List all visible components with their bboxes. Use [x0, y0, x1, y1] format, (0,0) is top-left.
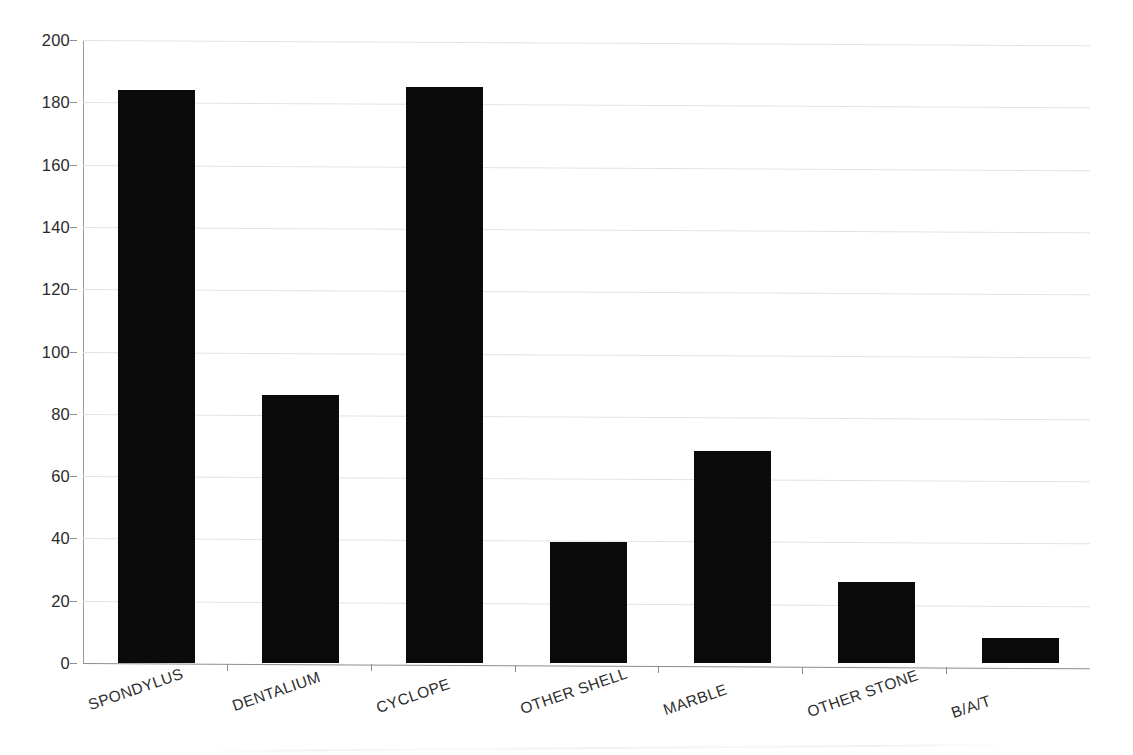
x-axis-tick-label: OTHER SHELL: [518, 665, 630, 719]
gridline: [83, 289, 1090, 295]
bar: [550, 542, 627, 663]
y-axis-tick-label: 0: [61, 654, 70, 673]
y-axis-tick-label: 200: [42, 31, 70, 50]
y-axis-tick-labels: 020406080100120140160180200: [0, 40, 70, 663]
gridline: [83, 102, 1090, 108]
y-axis-tick-mark: [70, 102, 77, 103]
x-axis-tick-label: CYCLOPE: [374, 675, 453, 717]
y-axis-tick-label: 60: [51, 467, 70, 486]
y-axis-tick-mark: [70, 289, 77, 290]
x-axis-tick-label: B/A/T: [949, 692, 993, 722]
y-axis-tick-mark: [70, 476, 77, 477]
x-axis-tick-labels: SPONDYLUSDENTALIUMCYCLOPEOTHER SHELLMARB…: [83, 663, 1133, 755]
bar: [262, 395, 339, 663]
y-axis-tick-mark: [70, 352, 77, 353]
bar: [694, 451, 771, 663]
x-axis-tick-label: DENTALIUM: [230, 668, 323, 715]
x-axis-tick-label: OTHER STONE: [805, 666, 921, 721]
y-axis-tick-label: 180: [42, 93, 70, 112]
gridline: [83, 414, 1090, 420]
plot-area: [83, 40, 1090, 663]
y-axis-tick-mark: [70, 663, 77, 664]
bar: [118, 90, 195, 663]
y-axis-tick-mark: [70, 601, 77, 602]
x-axis-tick-label: MARBLE: [661, 681, 729, 720]
y-axis-tick-label: 140: [42, 217, 70, 236]
y-axis-tick-label: 160: [42, 155, 70, 174]
y-axis-tick-mark: [70, 538, 77, 539]
y-axis-tick-label: 20: [51, 591, 70, 610]
y-axis-tick-mark: [70, 165, 77, 166]
x-axis-tick-label: SPONDYLUS: [86, 665, 186, 714]
y-axis-tick-label: 40: [51, 529, 70, 548]
y-axis-tick-mark: [70, 414, 77, 415]
chart-page: 020406080100120140160180200 SPONDYLUSDEN…: [0, 0, 1133, 755]
gridline: [83, 352, 1090, 358]
gridline: [83, 476, 1090, 482]
bar: [406, 87, 483, 663]
gridline: [83, 165, 1090, 171]
y-axis-tick-mark: [70, 227, 77, 228]
y-axis-tick-mark: [70, 40, 77, 41]
bar: [838, 582, 915, 663]
y-axis-tick-label: 100: [42, 342, 70, 361]
gridline: [83, 227, 1090, 233]
bar: [982, 638, 1059, 663]
gridline: [83, 40, 1090, 46]
y-axis-tick-label: 80: [51, 404, 70, 423]
y-axis-tick-label: 120: [42, 280, 70, 299]
